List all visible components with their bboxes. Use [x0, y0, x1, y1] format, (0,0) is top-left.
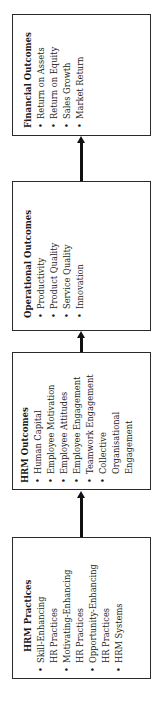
- operational-outcomes-box: Operational Outcomes Productivity Produc…: [12, 181, 151, 331]
- operational-outcomes-content: Operational Outcomes Productivity Produc…: [22, 210, 87, 318]
- hrm-practices-content: HRM Practices Skill-Enhancing HR Practic…: [22, 564, 126, 672]
- hrm-practices-list: Skill-Enhancing HR Practices Motivating-…: [35, 564, 126, 672]
- financial-outcomes-list: Return on Assets Return on Equity Sales …: [35, 32, 87, 128]
- list-item-continuation: HR Practices: [74, 564, 87, 672]
- list-item-continuation: HR Practices: [100, 564, 113, 672]
- hrm-outcomes-content: HRM Outcomes Human Capital Employee Moti…: [19, 374, 136, 483]
- list-item: Return on Equity: [48, 32, 61, 128]
- arrow-operational-to-financial: [80, 141, 83, 181]
- list-item: Productivity: [35, 210, 48, 318]
- list-item: Motivating-Enhancing: [61, 564, 74, 672]
- financial-outcomes-box: Financial Outcomes Return on Assets Retu…: [12, 14, 151, 136]
- arrowhead-icon: [77, 331, 85, 338]
- list-item: Innovation: [74, 210, 87, 318]
- list-item: HRM Systems: [113, 564, 126, 672]
- list-item: Service Quality: [61, 210, 74, 318]
- operational-outcomes-list: Productivity Product Quality Service Qua…: [35, 210, 87, 318]
- hrm-practices-box: HRM Practices Skill-Enhancing HR Practic…: [12, 537, 151, 679]
- list-item: Opportunity-Enhancing: [87, 564, 100, 672]
- operational-outcomes-title: Operational Outcomes: [22, 210, 35, 318]
- list-item: Skill-Enhancing: [35, 564, 48, 672]
- list-item: Teamwork Engagement: [84, 374, 97, 483]
- list-item-continuation: HR Practices: [48, 564, 61, 672]
- arrow-hrm-practices-to-hrm-outcomes: [80, 497, 83, 537]
- financial-outcomes-title: Financial Outcomes: [22, 32, 35, 128]
- list-item-continuation: Organisational: [110, 374, 123, 483]
- hrm-outcomes-list: Human Capital Employee Motivation Employ…: [32, 374, 136, 483]
- hrm-outcomes-box: HRM Outcomes Human Capital Employee Moti…: [12, 352, 151, 490]
- list-item: Employee Engagement: [71, 374, 84, 483]
- financial-outcomes-content: Financial Outcomes Return on Assets Retu…: [22, 32, 87, 128]
- arrowhead-icon: [77, 491, 85, 498]
- list-item-continuation: Engagement: [123, 374, 136, 483]
- list-item: Human Capital: [32, 374, 45, 483]
- list-item: Sales Growth: [61, 32, 74, 128]
- list-item: Return on Assets: [35, 32, 48, 128]
- list-item: Collective: [97, 374, 110, 483]
- arrow-hrm-outcomes-to-operational: [80, 337, 83, 352]
- list-item: Employee Attitudes: [58, 374, 71, 483]
- list-item: Employee Motivation: [45, 374, 58, 483]
- list-item: Product Quality: [48, 210, 61, 318]
- list-item: Market Return: [74, 32, 87, 128]
- arrowhead-icon: [77, 136, 85, 143]
- hrm-practices-title: HRM Practices: [22, 564, 35, 672]
- hrm-outcomes-title: HRM Outcomes: [19, 374, 32, 483]
